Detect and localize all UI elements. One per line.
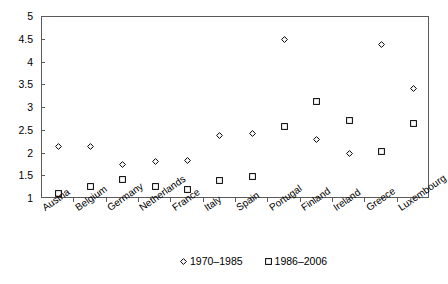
data-point [119, 176, 126, 183]
y-tick-mark [41, 62, 45, 63]
square-marker-icon [265, 258, 272, 265]
y-tick-label: 4 [0, 57, 33, 68]
y-tick-label: 2.5 [0, 125, 33, 136]
y-tick-mark [41, 130, 45, 131]
y-tick-mark [41, 39, 45, 40]
data-point [410, 85, 417, 92]
data-point [216, 177, 223, 184]
diamond-marker-icon [180, 258, 187, 265]
y-tick-label: 5 [0, 11, 33, 22]
data-point [378, 41, 385, 48]
y-tick-label: 4.5 [0, 34, 33, 45]
data-point [378, 148, 385, 155]
data-point [346, 150, 353, 157]
data-point [55, 143, 62, 150]
x-tick-mark [364, 198, 365, 202]
data-point [87, 143, 94, 150]
data-point [346, 117, 353, 124]
data-point [281, 123, 288, 130]
legend-entry: 1986–2006 [265, 256, 328, 267]
y-tick-label: 2 [0, 148, 33, 159]
x-tick-mark [73, 198, 74, 202]
y-tick-mark [41, 175, 45, 176]
data-point [249, 173, 256, 180]
legend-entry: 1970–1985 [180, 256, 243, 267]
x-tick-mark [170, 198, 171, 202]
data-point [184, 157, 191, 164]
y-tick-label: 3.5 [0, 79, 33, 90]
y-tick-mark [41, 84, 45, 85]
data-point [410, 120, 417, 127]
y-tick-label: 3 [0, 102, 33, 113]
data-point [313, 136, 320, 143]
data-point [281, 36, 288, 43]
data-point [152, 158, 159, 165]
data-point [119, 161, 126, 168]
data-point [313, 98, 320, 105]
x-tick-mark [267, 198, 268, 202]
data-points-layer [42, 17, 428, 197]
plot-area [41, 16, 429, 198]
data-point [249, 130, 256, 137]
legend-label: 1986–2006 [275, 256, 328, 267]
chart-legend: 1970–19851986–2006 [180, 256, 327, 267]
y-tick-label: 1.5 [0, 170, 33, 181]
y-tick-mark [41, 107, 45, 108]
legend-label: 1970–1985 [190, 256, 243, 267]
y-tick-mark [41, 153, 45, 154]
y-tick-label: 1 [0, 193, 33, 204]
data-point [216, 132, 223, 139]
